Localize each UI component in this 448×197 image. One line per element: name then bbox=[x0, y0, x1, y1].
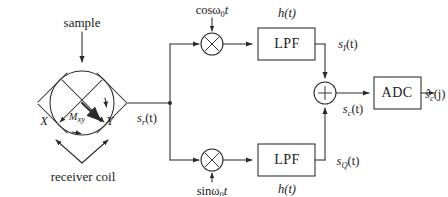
mixer-i-circle bbox=[201, 33, 223, 55]
axis-y-label: Y bbox=[107, 115, 114, 128]
received-signal-arg: (t) bbox=[145, 111, 157, 125]
lo-cos-subscript: 0 bbox=[221, 9, 225, 19]
signal-q-arg: (t) bbox=[348, 154, 360, 168]
signal-split-bus bbox=[170, 44, 199, 160]
mixer-q-circle bbox=[201, 149, 223, 171]
adc-output-label: ŝc(j) bbox=[425, 85, 445, 101]
lo-cos-time: t bbox=[225, 3, 228, 17]
lo-sin-time: t bbox=[224, 184, 227, 196]
received-signal-label: sr(t) bbox=[137, 109, 157, 125]
lpf-i-output-wire bbox=[315, 44, 325, 78]
lo-cos-function: cos bbox=[196, 3, 213, 17]
signal-q-label: sQ(t) bbox=[337, 152, 360, 168]
received-signal-subscript: r bbox=[142, 117, 145, 127]
lo-sin-omega: ω bbox=[211, 184, 219, 196]
signal-i-label: sI(t) bbox=[338, 35, 358, 51]
adc-output-subscript: c bbox=[430, 93, 434, 103]
lo-sin-label: sinω0t bbox=[197, 182, 228, 196]
sample-label: sample bbox=[64, 16, 101, 29]
lpf-q-label: LPF bbox=[274, 153, 299, 167]
axis-x-label: X bbox=[40, 115, 48, 128]
receiver-coil-label: receiver coil bbox=[51, 170, 116, 183]
summing-junction-circle bbox=[314, 82, 336, 104]
lpf-q-output-wire bbox=[315, 108, 325, 160]
figure-canvas: sample receiver coil X Y Mxy sr(t) cosω0… bbox=[0, 0, 448, 196]
lo-cos-omega: ω bbox=[212, 3, 220, 17]
receiver-coil-leader bbox=[56, 140, 108, 163]
signal-c-subscript: c bbox=[348, 108, 352, 118]
signal-c-label: sc(t) bbox=[343, 100, 363, 116]
signal-c-arg: (t) bbox=[351, 102, 363, 116]
lo-sin-function: sin bbox=[197, 184, 212, 196]
lo-cos-label: cosω0t bbox=[196, 1, 229, 17]
signal-q-subscript: Q bbox=[341, 160, 347, 170]
lpf-q-impulse-label: h(t) bbox=[278, 183, 296, 196]
lpf-i-impulse-label: h(t) bbox=[278, 7, 296, 20]
lo-sin-subscript: 0 bbox=[220, 190, 224, 197]
magnetization-subscript: xy bbox=[77, 114, 85, 124]
adc-output-arg: (j) bbox=[434, 87, 446, 101]
lpf-i-label: LPF bbox=[274, 37, 299, 51]
signal-i-arg: (t) bbox=[346, 37, 358, 51]
adc-label: ADC bbox=[382, 86, 413, 100]
signal-i-subscript: I bbox=[343, 43, 346, 53]
magnetization-label: Mxy bbox=[69, 107, 85, 123]
